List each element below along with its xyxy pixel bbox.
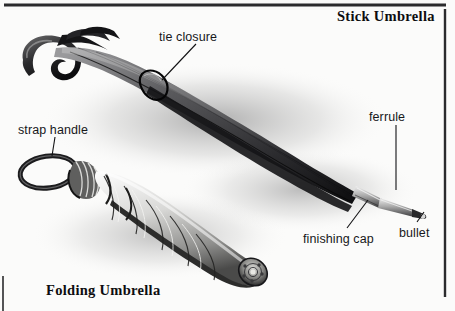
callout-label-finishing-cap: finishing cap bbox=[303, 232, 374, 246]
callout-label-ferrule: ferrule bbox=[369, 110, 405, 124]
callout-label-strap-handle: strap handle bbox=[18, 123, 88, 137]
folding-umbrella-title: Folding Umbrella bbox=[46, 282, 161, 299]
stick-umbrella-title: Stick Umbrella bbox=[337, 8, 435, 25]
callout-label-tie-closure: tie closure bbox=[159, 30, 217, 44]
umbrella-illustration bbox=[0, 0, 455, 311]
callout-label-bullet: bullet bbox=[399, 226, 429, 240]
illustration-page: Stick Umbrella Folding Umbrella tie clos… bbox=[0, 0, 455, 311]
